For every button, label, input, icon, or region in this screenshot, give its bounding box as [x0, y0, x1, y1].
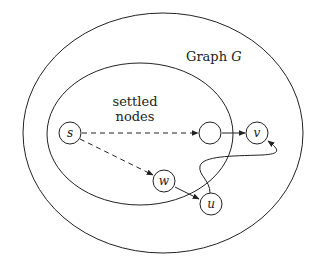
node-unlabeled [199, 122, 221, 144]
edge-s-to-w [80, 139, 153, 175]
node-v: v [246, 122, 268, 144]
node-s: s [59, 122, 81, 144]
edge-u-to-v [200, 141, 277, 193]
node-w: w [153, 170, 175, 192]
settled-label-line1: settled [113, 94, 158, 109]
node-unlabeled-circle [199, 122, 221, 144]
node-v-label: v [254, 126, 261, 140]
settled-label-line2: nodes [116, 109, 155, 124]
diagram-canvas: Graph G settled nodes s v w u [0, 0, 317, 262]
graph-label: Graph G [186, 49, 242, 64]
edge-w-to-u [175, 187, 199, 199]
node-u-label: u [207, 197, 215, 211]
node-w-label: w [159, 174, 170, 188]
node-u: u [200, 193, 222, 215]
node-s-label: s [67, 126, 73, 140]
